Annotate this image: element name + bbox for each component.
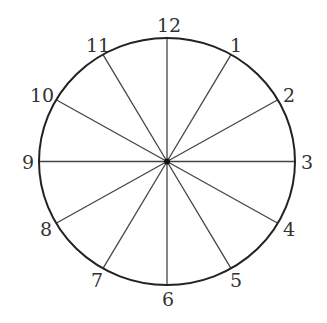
hour-label-5: 5 [230,269,242,291]
hour-label-12: 12 [157,14,181,36]
spoke-4 [167,162,278,224]
spoke-10 [56,100,167,162]
hour-label-6: 6 [162,288,174,310]
spoke-7 [103,162,167,269]
hour-label-8: 8 [40,218,52,240]
center-dot [164,159,170,165]
hour-label-7: 7 [91,269,103,291]
spoke-11 [103,55,167,162]
hour-label-3: 3 [301,151,313,173]
hour-label-10: 10 [30,84,54,106]
clock-diagram: 121234567891011 [0,0,327,323]
spoke-8 [56,162,167,224]
spoke-1 [167,55,231,162]
hour-label-4: 4 [283,218,295,240]
spoke-2 [167,100,278,162]
spoke-5 [167,162,231,269]
hour-label-11: 11 [86,34,110,56]
hour-label-1: 1 [230,34,242,56]
hour-label-9: 9 [22,151,34,173]
hour-label-2: 2 [283,84,295,106]
